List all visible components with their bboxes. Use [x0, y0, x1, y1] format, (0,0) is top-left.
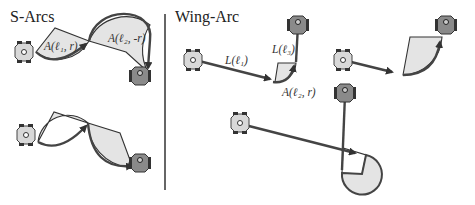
label-a-l1-r: A(ℓ₁, r) — [43, 40, 78, 53]
robot-start-icon — [15, 41, 33, 63]
robot-goal-icon — [129, 154, 151, 172]
robot-goal-icon — [129, 67, 151, 85]
robot-goal-icon — [287, 16, 309, 34]
label-a-l2-neg-r: A(ℓ₂, -r) — [107, 32, 146, 45]
s-arcs-bottom — [17, 112, 151, 172]
wing-arc-3 — [231, 84, 382, 195]
s-arcs-title: S-Arcs — [10, 8, 54, 25]
label-a-l2-r: A(ℓ₂, r) — [281, 86, 316, 99]
robot-start-icon — [17, 124, 35, 146]
robot-start-icon — [184, 49, 202, 71]
label-l-l1: L(ℓ₁) — [224, 54, 248, 67]
wing-arc-2 — [334, 16, 457, 75]
label-l-l3: L(ℓ₃) — [271, 43, 295, 56]
robot-start-icon — [231, 112, 249, 134]
robot-goal-icon — [334, 84, 356, 102]
robot-start-icon — [334, 49, 352, 71]
diagram-canvas: S-Arcs Wing-Arc A(ℓ₁, r) A(ℓ₂, -r) L(ℓ₁)… — [0, 0, 475, 205]
wing-arc-title: Wing-Arc — [175, 8, 239, 26]
robot-goal-icon — [435, 16, 457, 34]
wing-arc-1: L(ℓ₁) L(ℓ₃) A(ℓ₂, r) — [184, 16, 316, 99]
